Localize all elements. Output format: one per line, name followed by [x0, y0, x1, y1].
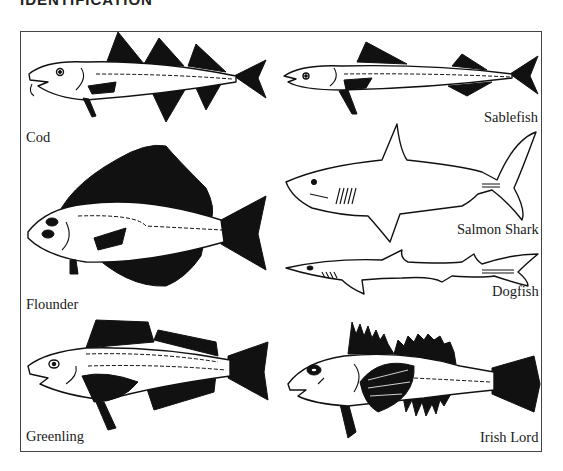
fish-label-greenling: Greenling [26, 428, 84, 445]
page-heading: IDENTIFICATION [20, 0, 153, 8]
sablefish-illustration [282, 36, 540, 106]
flounder-illustration [26, 138, 271, 298]
fish-label-dogfish: Dogfish [492, 283, 539, 300]
greenling-illustration [26, 316, 271, 426]
fish-label-salmon-shark: Salmon Shark [457, 221, 539, 238]
irish-lord-illustration [284, 320, 542, 442]
fish-label-irish-lord: Irish Lord [480, 429, 538, 446]
fish-label-flounder: Flounder [26, 296, 78, 313]
cod-illustration [26, 32, 276, 127]
